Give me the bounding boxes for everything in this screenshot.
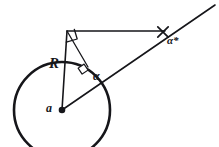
label-radius-R: R	[49, 56, 59, 71]
ray-from-center	[62, 5, 215, 110]
label-angle-alpha-star: α*	[167, 35, 179, 46]
label-angle-alpha: α	[93, 70, 100, 82]
center-point-dot	[59, 107, 66, 114]
geometry-figure: R a α α*	[0, 0, 219, 147]
label-center-a: a	[46, 102, 52, 114]
geometry-canvas	[0, 0, 219, 147]
radius-line-R	[62, 31, 67, 110]
